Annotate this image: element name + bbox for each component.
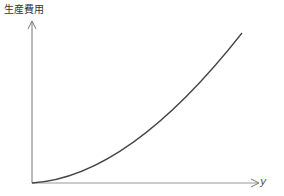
x-axis (32, 179, 259, 187)
y-axis (28, 21, 36, 183)
cost-curve (32, 33, 242, 183)
cost-chart (0, 0, 284, 196)
